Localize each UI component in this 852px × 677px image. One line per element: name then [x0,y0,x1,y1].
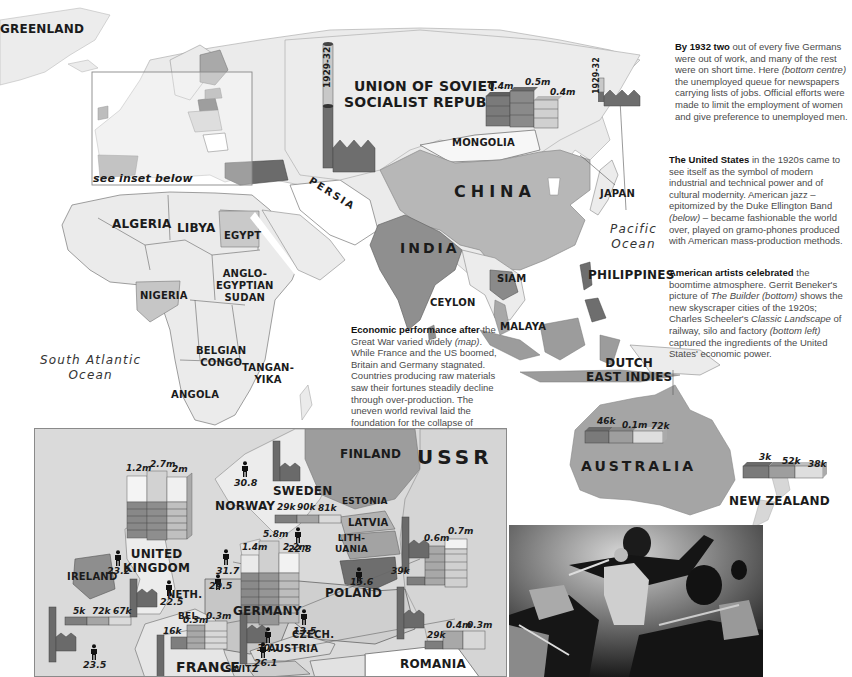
person-icon [113,550,123,566]
romania-bar-1-value: 29k [427,630,446,640]
ocean-line1: South Atlantic [40,353,141,368]
france-bar-3-value: 0.3m [206,611,231,621]
caption-artists-lead: American artists celebrated [669,267,794,278]
france-bar-1-value: 16k [163,626,182,636]
person-icon [164,580,174,596]
label-bc-line1: BELGIAN [196,345,246,357]
label-australia: AUSTRALIA [581,458,696,474]
label-ussr-inset: USSR [417,445,493,469]
label-uk-line2: KINGDOM [123,561,190,575]
germany-bar-1-value: 1.4m [242,542,267,552]
label-aes-line2: EGYPTIAN [216,280,274,292]
label-japan: JAPAN [600,188,635,199]
label-lith-line1: LITH- [335,533,368,544]
iberia-bar-chart [65,617,131,625]
sweden-bar-2-value: 90k [297,502,316,512]
label-lith-line2: UANIA [335,544,368,555]
label-siam: SIAM [497,273,526,284]
label-libya: LIBYA [177,221,215,235]
label-south-atlantic-ocean: South Atlantic Ocean [40,353,141,383]
photo-image [509,525,763,677]
germany-bar-2-value: 5.8m [263,529,288,539]
caption-artists-ref1: (bottom) [762,290,797,301]
uk-bar-1-value: 1.2m [126,463,151,473]
duke-ellington-band-photo [509,525,763,677]
nz-bar-2-value: 52k [782,456,801,466]
label-latvia: LATVIA [348,517,389,528]
poland-bar-2-value: 0.6m [424,533,449,543]
label-norway: NORWAY [215,499,275,513]
label-china: CHINA [454,182,536,201]
caption-germany-ref: (bottom centre) [782,64,846,75]
sweden-bar-1-value: 29k [277,502,296,512]
label-aes-line1: ANGLO- [216,268,274,280]
label-estonia: ESTONIA [342,496,388,506]
ussr-bar-1-value: 0.4m [488,81,513,91]
person-icon [263,627,273,643]
caption-us-lead: The United States [669,154,749,165]
label-united-kingdom: UNITED KINGDOM [123,547,190,575]
iberia-bar-1-value: 5k [73,606,85,616]
label-bc-line2: CONGO [196,357,246,369]
caption-united-states: The United States in the 1920s came to s… [669,154,847,247]
stat-czech: 13.5 [293,625,316,636]
label-mongolia: MONGOLIA [452,137,515,148]
sweden-bar-chart [275,515,341,523]
map-spread: GREENLAND see inset below UNION OF SOVIE… [0,0,852,677]
label-india: INDIA [400,240,460,256]
caption-artists-ref2: (bottom left) [770,325,821,336]
australia-bar-3-value: 72k [651,421,670,431]
europe-inset-map: FINLAND USSR SWEDEN NORWAY ESTONIA LATVI… [34,428,507,677]
uk-bar-chart [127,471,192,540]
label-poland: POLAND [325,586,382,600]
year-range-japan: 1929-32 [592,57,601,94]
caption-artists-title1: The Builder [711,290,760,301]
nz-bar-1-value: 3k [759,452,771,462]
label-tanganyika: TANGAN- YIKA [242,362,294,386]
label-belgian-congo: BELGIAN CONGO [196,345,246,369]
ussr-bar-3-value: 0.4m [550,87,575,97]
label-tg-line1: TANGAN- [242,362,294,374]
label-finland: FINLAND [340,447,401,461]
label-greenland: GREENLAND [0,22,84,36]
person-icon [221,549,231,565]
label-anglo-egyptian-sudan: ANGLO- EGYPTIAN SUDAN [216,268,274,304]
label-aes-line3: SUDAN [216,292,274,304]
caption-germany-tail: the unemployed queue for newspapers carr… [675,76,848,122]
caption-germany-lead: By 1932 two [675,41,730,52]
label-lithuania: LITH- UANIA [335,533,368,555]
ussr-bar-2-value: 0.5m [525,77,550,87]
caption-economic-tail: . While France and the US boomed, Britai… [351,336,497,440]
ocean-line2: Ocean [40,368,141,383]
iberia-bar-3-value: 67k [113,606,132,616]
person-icon [299,609,309,625]
poland-bar-1-value: 39k [391,566,410,576]
label-romania: ROMANIA [400,657,466,671]
label-philippines: PHILIPPINES [588,268,675,282]
label-new-zealand: NEW ZEALAND [729,494,830,508]
person-icon [89,644,99,660]
label-pacific-ocean: Pacific Ocean [610,222,657,252]
caption-artists-title2: Classic Landscape [751,313,831,324]
poland-bar-3-value: 0.7m [448,526,473,536]
france-bar-2-value: 0.3m [183,615,208,625]
stat-poland: 15.6 [350,576,373,587]
uk-bar-3-value: 2m [172,464,188,474]
person-icon [258,642,268,658]
sweden-bar-3-value: 81k [318,503,337,513]
label-algeria: ALGERIA [112,217,171,231]
person-icon [293,527,303,543]
japan-factory-chart [596,70,646,110]
caption-us-ref: (below) [669,212,700,223]
romania-bar-3-value: 0.3m [467,620,492,630]
label-dutch-east-indies: DUTCH EAST INDIES [586,356,672,384]
caption-economic-lead: Economic performance after [351,324,480,335]
inset-note: see inset below [93,172,193,185]
label-dei-line2: EAST INDIES [586,370,672,384]
stat-ireland: 23.2 [107,565,130,576]
ocean-line1: Pacific [610,222,657,237]
iberia-bar-2-value: 72k [92,606,111,616]
label-nigeria: NIGERIA [140,290,188,301]
caption-germany: By 1932 two out of every five Germans we… [675,41,850,122]
caption-economic: Economic performance after the Great War… [351,324,499,440]
